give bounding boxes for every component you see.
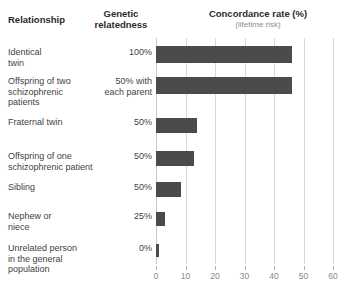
tick-mark-10 <box>186 266 187 270</box>
row-label-line: schizophrenic patient <box>8 162 112 173</box>
bar-5 <box>156 212 165 226</box>
gridline-20 <box>215 38 216 264</box>
row-genetic-line: each parent <box>78 87 152 98</box>
tick-label-60: 60 <box>322 271 344 281</box>
row-label-line: niece <box>8 222 112 233</box>
row-label-line: population <box>8 264 112 275</box>
bar-0 <box>156 46 292 63</box>
tick-mark-50 <box>304 266 305 270</box>
bar-3 <box>156 151 194 166</box>
row-genetic-offspring-of-two: 50% with each parent <box>78 76 152 97</box>
row-genetic-identical-twin: 100% <box>78 47 152 58</box>
column-header-concordance-rate: Concordance rate (%) <box>178 8 338 19</box>
row-label-line: twin <box>8 58 112 69</box>
tick-label-30: 30 <box>234 271 256 281</box>
column-header-concordance-subtitle: (lifetime risk) <box>178 20 338 29</box>
tick-label-40: 40 <box>263 271 285 281</box>
bar-6 <box>156 244 159 257</box>
row-genetic-nephew-or-niece: 25% <box>78 211 152 222</box>
plot-area: 0102030405060 <box>156 38 333 264</box>
tick-label-0: 0 <box>145 271 167 281</box>
gridline-60 <box>333 38 334 264</box>
bar-1 <box>156 77 292 94</box>
row-genetic-line: 50% with <box>78 76 152 87</box>
row-genetic-offspring-of-one: 50% <box>78 151 152 162</box>
row-label-line: in the general <box>8 254 112 265</box>
tick-mark-40 <box>274 266 275 270</box>
gridline-50 <box>304 38 305 264</box>
tick-mark-30 <box>245 266 246 270</box>
tick-label-50: 50 <box>293 271 315 281</box>
bar-2 <box>156 118 197 133</box>
column-header-genetic-relatedness: Genetic relatedness <box>88 8 154 30</box>
bar-4 <box>156 182 181 197</box>
row-genetic-sibling: 50% <box>78 182 152 193</box>
tick-mark-20 <box>215 266 216 270</box>
tick-mark-0 <box>156 266 157 270</box>
row-label-line: patients <box>8 97 112 108</box>
tick-mark-60 <box>333 266 334 270</box>
column-header-genetic-line1: Genetic <box>88 8 154 19</box>
column-header-genetic-line2: relatedness <box>88 19 154 30</box>
gridline-30 <box>245 38 246 264</box>
row-genetic-unrelated-person: 0% <box>78 243 152 254</box>
row-genetic-fraternal-twin: 50% <box>78 117 152 128</box>
chart-figure: Relationship Genetic relatedness Concord… <box>0 0 362 290</box>
tick-label-20: 20 <box>204 271 226 281</box>
gridline-40 <box>274 38 275 264</box>
tick-label-10: 10 <box>175 271 197 281</box>
